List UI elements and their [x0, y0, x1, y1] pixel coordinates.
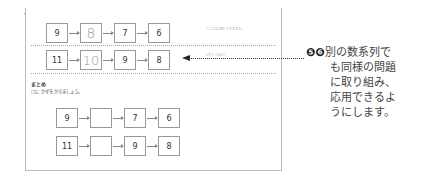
dotted-divider: [31, 45, 276, 46]
blank-box[interactable]: [90, 108, 112, 128]
arrow-icon: [79, 146, 89, 147]
sequence-row-2: 11 10 9 8: [46, 50, 170, 70]
arrow-icon: [147, 118, 157, 119]
summary-instruction: □に かずを かきましょう。: [31, 88, 82, 94]
annotation-line-3: に取り組み、: [306, 75, 418, 90]
arrow-icon: [137, 33, 147, 34]
annotation-line-1: ❺❻別の数系列で: [306, 45, 418, 60]
arrow-icon: [69, 33, 79, 34]
number-box: 7: [124, 108, 146, 128]
annotation-note: ❺❻別の数系列で も同様の問題 に取り組み、 応用できるよ うにします。: [306, 45, 418, 120]
blank-box[interactable]: [90, 136, 112, 156]
number-box: 9: [46, 23, 68, 43]
arrow-icon: [69, 60, 79, 61]
arrow-icon: [103, 60, 113, 61]
arrow-icon: [147, 146, 157, 147]
pointer-dotted-line: [186, 58, 304, 59]
annotation-line-5: うにします。: [306, 105, 418, 120]
summary-row-2: 11 9 8: [56, 136, 180, 156]
number-box: 7: [114, 23, 136, 43]
arrow-icon: [113, 118, 123, 119]
number-box: 8: [158, 136, 180, 156]
sequence-row-1: 9 8 7 6: [46, 23, 170, 43]
arrow-icon: [79, 118, 89, 119]
dotted-divider: [31, 73, 276, 74]
arrow-icon: [113, 146, 123, 147]
answer-box: 8: [80, 23, 102, 43]
arrow-icon: [137, 60, 147, 61]
arrow-icon: [103, 33, 113, 34]
annotation-line-2: も同様の問題: [306, 60, 418, 75]
summary-title: まとめ: [31, 80, 46, 87]
number-box: 9: [114, 50, 136, 70]
hint-text-1: ここには 何が 入りますか。: [206, 27, 244, 31]
number-box: 6: [158, 108, 180, 128]
hint-text-2: 1ずつ へると？: [206, 53, 227, 57]
worksheet: 9 8 7 6 ここには 何が 入りますか。 11 10 9 8 1ずつ へると…: [25, 8, 282, 171]
marker-badges: ❺❻: [306, 46, 325, 59]
answer-box: 10: [80, 50, 102, 70]
number-box: 8: [148, 50, 170, 70]
number-box: 11: [56, 136, 78, 156]
number-box: 6: [148, 23, 170, 43]
number-box: 11: [46, 50, 68, 70]
number-box: 9: [56, 108, 78, 128]
number-box: 9: [124, 136, 146, 156]
annotation-line-4: 応用できるよ: [306, 90, 418, 105]
summary-row-1: 9 7 6: [56, 108, 180, 128]
